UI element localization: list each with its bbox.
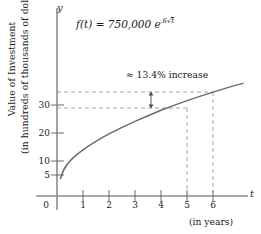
increase-gap-arrow [149,92,154,109]
investment-growth-chart: Value of Investment (in hundreds of thou… [0,0,261,234]
function-curve [61,83,244,178]
chart-plot-area [0,0,261,234]
